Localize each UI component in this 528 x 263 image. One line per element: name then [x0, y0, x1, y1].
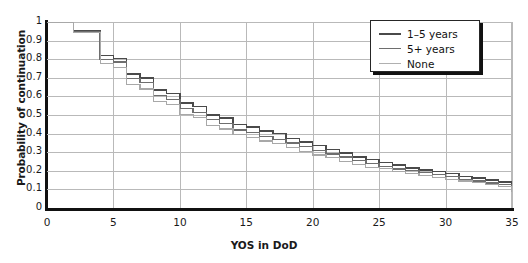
x-tick-label: 35 [492, 216, 528, 228]
legend-label-none: None [407, 58, 434, 70]
y-tick-label: 0.9 [2, 34, 42, 45]
legend-label-1-5-years: 1–5 years [407, 28, 458, 40]
figure-container: Probability of continuation 00.10.20.30.… [0, 0, 528, 263]
legend-swatch-none [379, 63, 401, 64]
y-tick-label: 0.4 [2, 127, 42, 138]
x-tick-label: 30 [426, 216, 466, 228]
legend-label-5-plus-years: 5+ years [407, 43, 455, 55]
y-tick-label: 0.7 [2, 71, 42, 82]
gridline-vertical [512, 22, 513, 208]
y-tick-label: 0.2 [2, 164, 42, 175]
y-tick-label: 0 [2, 201, 42, 212]
legend-swatch-5-plus-years [379, 48, 401, 49]
legend-swatch-1-5-years [379, 33, 401, 35]
legend-item: 5+ years [379, 41, 479, 56]
legend-box: 1–5 years 5+ years None [370, 20, 480, 72]
y-tick-label: 0.1 [2, 182, 42, 193]
x-tick-label: 20 [293, 216, 333, 228]
x-tick-label: 25 [359, 216, 399, 228]
x-axis-title: YOS in DoD [0, 239, 528, 251]
x-tick-label: 10 [160, 216, 200, 228]
legend-item: 1–5 years [379, 26, 479, 41]
x-tick-label: 0 [27, 216, 67, 228]
y-tick-label: 1 [2, 15, 42, 26]
axis-line-x [45, 208, 514, 211]
x-tick-label: 15 [226, 216, 266, 228]
y-tick-label: 0.3 [2, 145, 42, 156]
y-tick-label: 0.5 [2, 108, 42, 119]
legend-item: None [379, 56, 479, 71]
x-tick-label: 5 [93, 216, 133, 228]
y-tick-label: 0.8 [2, 52, 42, 63]
y-tick-label: 0.6 [2, 89, 42, 100]
